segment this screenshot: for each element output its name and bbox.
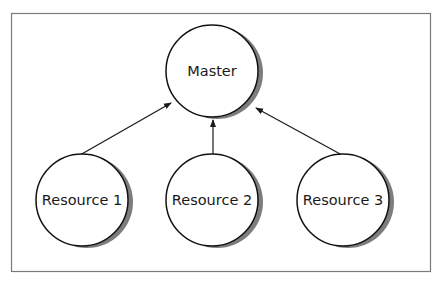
edge-resource1-to-master xyxy=(80,103,171,155)
node-resource-2: Resource 2 xyxy=(166,154,263,248)
node-master: Master xyxy=(166,25,263,119)
resource-3-label: Resource 3 xyxy=(303,192,383,208)
resource-1-label: Resource 1 xyxy=(42,192,122,208)
edge-resource3-to-master xyxy=(256,108,342,155)
resource-2-label: Resource 2 xyxy=(172,192,252,208)
master-label: Master xyxy=(187,63,237,79)
node-resource-1: Resource 1 xyxy=(36,154,133,248)
master-resource-diagram: Master Resource 1 Resource 2 Resource 3 xyxy=(0,0,440,281)
node-resource-3: Resource 3 xyxy=(297,154,394,248)
